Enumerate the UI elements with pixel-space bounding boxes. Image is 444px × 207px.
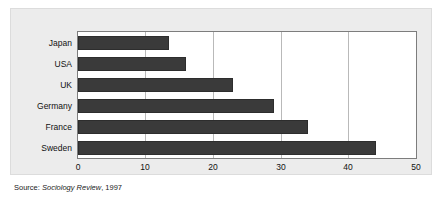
bar-series: Japan USA UK Germany France Sweden <box>78 32 416 158</box>
caption-prefix: Source: <box>14 183 40 192</box>
bar-usa <box>78 57 186 71</box>
category-label-uk: UK <box>60 78 72 92</box>
figure-panel: Japan USA UK Germany France Sweden <box>10 8 432 175</box>
category-label-germany: Germany <box>37 99 72 113</box>
xtick-10: 10 <box>140 162 149 172</box>
xtick-30: 30 <box>276 162 285 172</box>
caption-source-name: Sociology Review <box>42 183 101 192</box>
xtick-50: 50 <box>411 162 420 172</box>
bar-row: France <box>78 120 416 134</box>
category-label-usa: USA <box>55 57 72 71</box>
xtick-20: 20 <box>208 162 217 172</box>
bar-row: UK <box>78 78 416 92</box>
caption-year: , 1997 <box>101 183 122 192</box>
bar-france <box>78 120 308 134</box>
bar-row: Germany <box>78 99 416 113</box>
bar-uk <box>78 78 233 92</box>
category-label-sweden: Sweden <box>41 141 72 155</box>
bar-row: USA <box>78 57 416 71</box>
bar-japan <box>78 36 169 50</box>
xtick-0: 0 <box>76 162 81 172</box>
plot-area: Japan USA UK Germany France Sweden <box>77 31 417 159</box>
xtick-40: 40 <box>343 162 352 172</box>
bar-row: Sweden <box>78 141 416 155</box>
bar-germany <box>78 99 274 113</box>
category-label-japan: Japan <box>49 36 72 50</box>
bar-row: Japan <box>78 36 416 50</box>
source-caption: Source: Sociology Review, 1997 <box>14 183 122 192</box>
category-label-france: France <box>46 120 72 134</box>
bar-sweden <box>78 141 376 155</box>
